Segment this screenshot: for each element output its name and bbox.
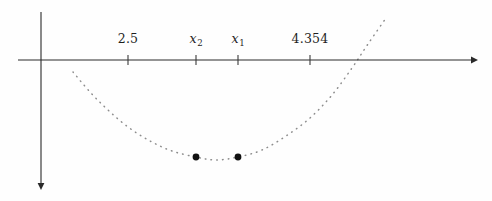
- tick-label-4.354: 4.354: [292, 33, 329, 46]
- y-axis-arrow-icon: [38, 183, 45, 190]
- tick-label-subscript: 1: [239, 38, 245, 48]
- x2-point: [193, 154, 200, 161]
- tick-label-2.5: 2.5: [118, 33, 138, 46]
- plot-svg: [0, 0, 492, 201]
- tick-label-base: x: [190, 31, 197, 46]
- x-axis-arrow-icon: [471, 57, 478, 64]
- figure-canvas: 2.5x2x14.354: [0, 0, 492, 201]
- tick-label-subscript: 2: [197, 38, 203, 48]
- x1-point: [235, 154, 242, 161]
- tick-label-x1: x1: [232, 33, 245, 46]
- tick-label-x2: x2: [190, 33, 203, 46]
- tick-label-base: x: [232, 31, 239, 46]
